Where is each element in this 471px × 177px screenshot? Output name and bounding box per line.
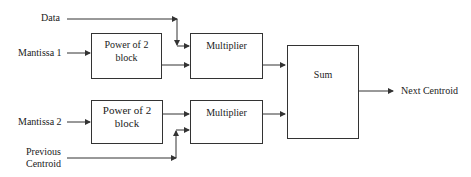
multiplier2-label: Multiplier	[191, 106, 262, 119]
input-data-label: Data	[41, 12, 60, 24]
input-previous-centroid-label-1: Previous	[26, 146, 61, 158]
power-of-2-block-2: Power of 2 block	[91, 100, 163, 144]
output-next-centroid-label: Next Centroid	[401, 85, 458, 97]
input-mantissa2-label: Mantissa 2	[18, 116, 62, 128]
power1-label-line2: block	[92, 51, 161, 64]
multiplier1-label: Multiplier	[191, 39, 262, 52]
power2-label-line1: Power of 2	[92, 104, 162, 117]
input-mantissa1-label: Mantissa 1	[18, 47, 62, 59]
power1-label-line1: Power of 2	[92, 38, 161, 51]
multiplier-block-1: Multiplier	[190, 33, 263, 79]
sum-label: Sum	[288, 68, 358, 81]
sum-block: Sum	[287, 45, 359, 139]
multiplier-block-2: Multiplier	[190, 100, 263, 144]
power-of-2-block-1: Power of 2 block	[91, 33, 162, 79]
power2-label-line2: block	[92, 117, 162, 130]
input-previous-centroid-label-2: Centroid	[26, 158, 61, 170]
block-diagram: Data Mantissa 1 Mantissa 2 Previous Cent…	[0, 0, 471, 177]
